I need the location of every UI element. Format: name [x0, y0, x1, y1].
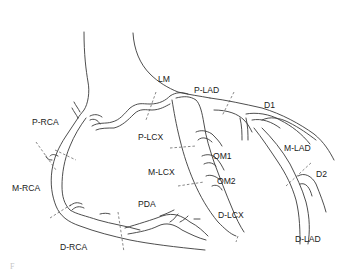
label-m-lcx: M-LCX	[148, 167, 175, 177]
label-d2: D2	[316, 169, 327, 179]
label-p-rca: P-RCA	[32, 117, 59, 127]
label-d-lad: D-LAD	[295, 234, 321, 244]
label-m-rca: M-RCA	[12, 183, 40, 193]
label-om2: OM2	[217, 176, 236, 186]
label-d1: D1	[264, 100, 275, 110]
coronary-artery-diagram: LM P-LAD D1 P-RCA P-LCX OM1 M-LCX OM2 M-…	[0, 0, 343, 273]
label-p-lcx: P-LCX	[138, 132, 164, 142]
label-p-lad: P-LAD	[194, 85, 219, 95]
aorta	[78, 32, 210, 118]
pda-vessel	[100, 210, 208, 240]
label-lm: LM	[158, 74, 170, 84]
label-om1: OM1	[213, 151, 232, 161]
label-d-lcx: D-LCX	[218, 210, 244, 220]
figure-caption: F	[10, 262, 330, 273]
label-pda: PDA	[138, 199, 156, 209]
label-m-lad: M-LAD	[284, 143, 311, 153]
label-d-rca: D-RCA	[60, 242, 87, 252]
